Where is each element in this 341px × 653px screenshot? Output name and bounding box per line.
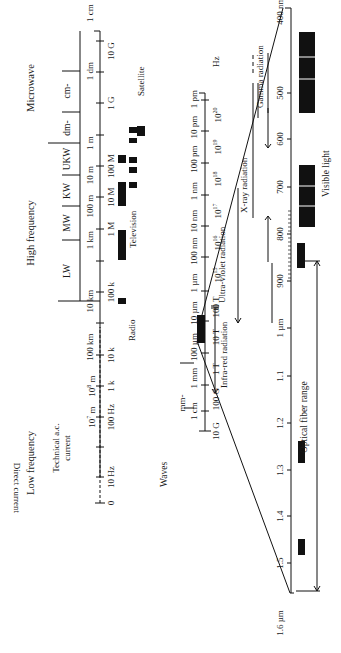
lwl-tick-100nm: 100 nm [190, 237, 199, 264]
fiber-window-850 [297, 243, 305, 268]
opt-tick-400nm: 400 nm [276, 0, 285, 25]
television-label: Television [129, 211, 138, 248]
radio-bar-lw [118, 298, 126, 304]
microwave-heading: Microwave [26, 64, 37, 112]
opt-tick-900: 900 [276, 274, 285, 288]
lwl-tick-10nm: 10 nm [190, 210, 199, 233]
lwl-tick-1pm: 1 pm [190, 90, 199, 108]
tv-bar-2 [129, 167, 137, 173]
gamma-label: Gamma radiation [256, 45, 265, 108]
radio-bar-ukw [118, 155, 126, 163]
band-ukw: UKW [63, 148, 73, 171]
wl-tick-1km: 1 km [86, 231, 95, 249]
lwl-tick-100um: 100 µm [190, 333, 199, 361]
hz-unit-label: Hz [212, 57, 221, 68]
lfreq-tick-1e20: 1020 [212, 108, 223, 123]
freq-tick-10k: 10 k [107, 347, 116, 363]
freq-tick-1g: 1 G [107, 96, 116, 109]
lwl-tick-10pm: 10 pm [190, 116, 199, 139]
opt-tick-1-1: 1.1 [276, 370, 285, 381]
technical-ac-label-line1: Technical a.c. [52, 423, 61, 473]
opt-tick-1-5: 1.5 [276, 557, 285, 568]
freq-tick-0: 0 [107, 501, 116, 506]
diagram-lines [0, 0, 341, 653]
tv-bar-5 [129, 127, 137, 133]
band-cm: cm- [63, 84, 73, 99]
freq-tick-100hz: 100 Hz [107, 404, 116, 430]
freq-tick-1m: 1 M [107, 222, 116, 237]
freq-tick-10g: 10 G [107, 42, 116, 60]
opt-tick-1-6um: 1.6 µm [276, 610, 285, 636]
satellite-bar [137, 126, 145, 136]
wl-tick-100m: 100 m [86, 195, 95, 218]
opt-tick-500: 500 [276, 86, 285, 100]
waves-title: Waves [160, 462, 170, 487]
satellite-label: Satellite [137, 67, 146, 97]
opt-tick-1-3: 1.3 [276, 464, 285, 475]
freq-tick-100m: 100 M [107, 154, 116, 178]
wl-tick-10km: 10 km [86, 290, 95, 313]
opt-tick-1-4: 1.4 [276, 510, 285, 521]
lfreq-tick-1e19: 1019 [212, 140, 223, 155]
freq-tick-100k: 100 k [107, 282, 116, 302]
radio-bar-mw [118, 230, 126, 260]
opt-tick-600: 600 [276, 132, 285, 146]
lfreq-tick-1e17: 1017 [212, 204, 223, 219]
high-frequency-heading: High frequency [26, 200, 37, 266]
xray-label: X-ray radiation [240, 158, 249, 213]
wl-tick-10m: 10 m [86, 166, 95, 184]
opt-tick-700: 700 [276, 180, 285, 194]
ultraviolet-label: Ultra-violet radiation [218, 227, 227, 303]
visible-light-bar-1 [299, 32, 315, 113]
lfreq-tick-10g: 10 G [212, 422, 221, 440]
wl-tick-100km: 100 km [86, 333, 95, 360]
tv-bar-1 [129, 182, 137, 188]
opt-tick-800: 800 [276, 227, 285, 241]
freq-tick-10m: 10 M [107, 187, 116, 206]
radio-label: Radio [128, 320, 137, 342]
wl-tick-1e7m: 107 m [86, 406, 97, 427]
tv-bar-3 [129, 157, 137, 163]
wl-tick-1cm: 1 cm [86, 4, 95, 22]
band-mw: MW [63, 214, 73, 231]
low-frequency-heading: Low frequency [26, 431, 37, 495]
freq-tick-10hz: 10 Hz [107, 466, 116, 488]
electromagnetic-spectrum-diagram: Low frequency High frequency Microwave T… [0, 0, 341, 653]
lwl-tick-1cm: 1 cm [190, 402, 199, 420]
lfreq-tick-1e18: 1018 [212, 172, 223, 187]
band-mm: mm- [178, 395, 187, 412]
opt-tick-1-2: 1.2 [276, 417, 285, 428]
infrared-label: Infra-red radiation [220, 322, 229, 388]
lwl-tick-1mm: 1 mm [190, 368, 199, 389]
band-dm: dm- [63, 120, 73, 135]
wl-tick-1e8m: 108 m [86, 375, 97, 396]
lwl-tick-1um: 1 µm [190, 274, 199, 293]
band-kw: KW [63, 183, 73, 199]
technical-ac-label-line2: current [63, 435, 72, 460]
visible-light-label: Visible light [322, 150, 332, 197]
lfreq-tick-100g: 100 G [212, 388, 221, 410]
tv-bar-4 [129, 138, 137, 143]
direct-current-label: Direct current [12, 463, 21, 513]
lwl-tick-100pm: 100 pm [190, 145, 199, 172]
radio-bar-kw [118, 182, 126, 206]
fiber-window-1550 [298, 539, 305, 555]
band-lw: LW [63, 264, 73, 278]
visible-light-bar-2 [299, 165, 315, 227]
lwl-tick-1nm: 1 nm [190, 182, 199, 200]
lwl-tick-10um: 10 µm [190, 301, 199, 324]
opt-tick-1um: 1 µm [276, 319, 285, 338]
optical-fiber-range-label: Optical fiber range [300, 381, 310, 453]
wl-tick-1m: 1 m [86, 136, 95, 150]
freq-tick-1k: 1 k [107, 380, 116, 391]
wl-tick-1dm: 1 dm [86, 62, 95, 80]
